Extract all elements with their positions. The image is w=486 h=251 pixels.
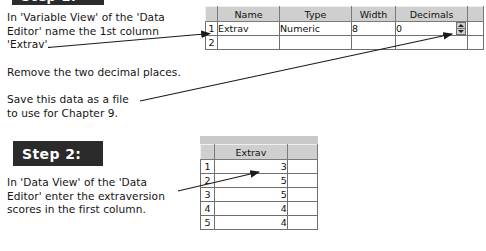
variable-view-spreadsheet: Name Type Width Decimals 1 Extrav Numeri… [205, 6, 484, 50]
data-view-table: Extrav 1 3 2 5 3 5 [200, 144, 318, 230]
column-header-width[interactable]: Width [352, 7, 396, 22]
data-cell-extrav-5[interactable]: 4 [215, 216, 288, 230]
cell-type-row2[interactable] [280, 36, 352, 50]
table-row: 1 3 [201, 160, 318, 174]
data-row-number-3[interactable]: 3 [201, 188, 215, 202]
table-row: 5 4 [201, 216, 318, 230]
table-row: 2 [206, 36, 484, 50]
column-header-type[interactable]: Type [280, 7, 352, 22]
step-1-instruction-text: In 'Variable View' of the 'Data Editor' … [7, 11, 203, 52]
data-cell-spare-4[interactable] [287, 202, 317, 216]
column-header-name[interactable]: Name [218, 7, 280, 22]
table-row: 4 4 [201, 202, 318, 216]
cell-type-row1[interactable]: Numeric [280, 22, 352, 36]
data-row-number-1[interactable]: 1 [201, 160, 215, 174]
variable-view-table: Name Type Width Decimals 1 Extrav Numeri… [205, 6, 484, 50]
data-cell-extrav-2[interactable]: 5 [215, 174, 288, 188]
cell-spare-row2[interactable] [468, 36, 484, 50]
cell-decimals-row2[interactable] [396, 36, 468, 50]
cell-width-row2[interactable] [352, 36, 396, 50]
cell-name-row2[interactable] [218, 36, 280, 50]
cell-spare-row1[interactable] [468, 22, 484, 36]
table-row: 3 5 [201, 188, 318, 202]
cell-width-row1[interactable]: 8 [352, 22, 396, 36]
data-view-header-row: Extrav [201, 145, 318, 160]
cell-decimals-row1[interactable]: 0 [396, 22, 468, 36]
column-header-spare[interactable] [287, 145, 317, 160]
column-header-spare[interactable] [468, 7, 484, 22]
column-header-extrav[interactable]: Extrav [215, 145, 288, 160]
cell-name-row1[interactable]: Extrav [218, 22, 280, 36]
data-cell-extrav-3[interactable]: 5 [215, 188, 288, 202]
triangle-down-icon[interactable] [457, 29, 465, 34]
variable-view-header-row: Name Type Width Decimals [206, 7, 484, 22]
data-view-toolbar [200, 136, 318, 144]
figure-canvas: Step 1: In 'Variable View' of the 'Data … [0, 0, 486, 251]
grid-corner-cell[interactable] [206, 7, 218, 22]
data-row-number-5[interactable]: 5 [201, 216, 215, 230]
step-2-label: Step 2: [22, 146, 81, 162]
data-cell-spare-5[interactable] [287, 216, 317, 230]
step-2-badge: Step 2: [13, 141, 103, 166]
data-cell-spare-2[interactable] [287, 174, 317, 188]
data-cell-spare-1[interactable] [287, 160, 317, 174]
row-number-2[interactable]: 2 [206, 36, 218, 50]
decimals-spinner[interactable] [456, 22, 466, 35]
row-number-1[interactable]: 1 [206, 22, 218, 36]
data-view-spreadsheet: Extrav 1 3 2 5 3 5 [200, 136, 318, 230]
data-row-number-2[interactable]: 2 [201, 174, 215, 188]
step-1-badge: Step 1: [12, 0, 104, 5]
step-1-label: Step 1: [21, 0, 76, 4]
data-row-number-4[interactable]: 4 [201, 202, 215, 216]
save-file-instruction-text: Save this data as a file to use for Chap… [7, 93, 207, 120]
data-cell-extrav-4[interactable]: 4 [215, 202, 288, 216]
table-row: 2 5 [201, 174, 318, 188]
remove-decimals-instruction-text: Remove the two decimal places. [7, 66, 207, 80]
data-cell-spare-3[interactable] [287, 188, 317, 202]
table-row: 1 Extrav Numeric 8 0 [206, 22, 484, 36]
data-cell-extrav-1[interactable]: 3 [215, 160, 288, 174]
grid-corner-cell[interactable] [201, 145, 215, 160]
cell-decimals-value: 0 [396, 23, 402, 34]
column-header-decimals[interactable]: Decimals [396, 7, 468, 22]
step-2-instruction-text: In 'Data View' of the 'Data Editor' ente… [7, 176, 207, 217]
